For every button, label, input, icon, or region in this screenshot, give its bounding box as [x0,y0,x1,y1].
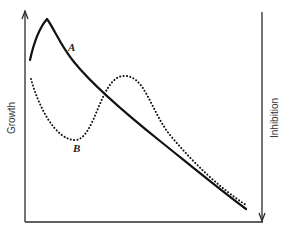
curve-a-label: A [67,41,75,53]
curve-a [30,19,246,209]
y-axis-right-label: Inhibition [269,98,280,138]
growth-inhibition-chart: Growth Inhibition A B [0,0,284,232]
curve-b [31,76,246,205]
y-axis-left-label: Growth [6,102,17,134]
curve-b-label: B [72,142,80,154]
